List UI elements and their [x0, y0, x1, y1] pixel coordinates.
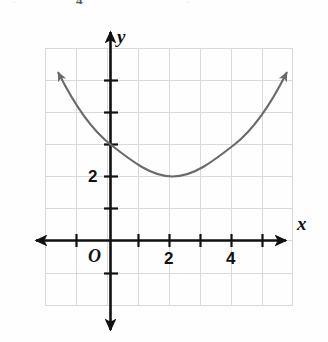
parabola-curve [58, 73, 286, 177]
y-tick-label-2: 2 [88, 168, 97, 185]
coordinate-plane [0, 0, 328, 342]
origin-label: O [88, 247, 101, 265]
axis-lines [36, 32, 286, 330]
x-tick-label-2: 2 [164, 250, 173, 267]
graph-canvas: 4 · · [0, 0, 328, 342]
x-tick-label-4: 4 [226, 250, 235, 267]
x-axis-label: x [297, 214, 307, 233]
y-axis-label: y [117, 27, 125, 46]
